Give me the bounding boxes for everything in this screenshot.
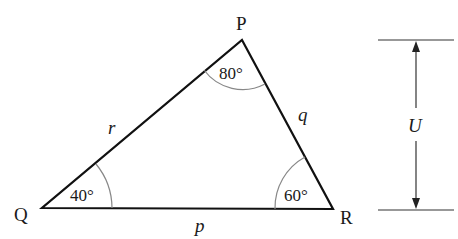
triangle-diagram: P Q R 80° 40° 60° r q p U — [0, 0, 458, 239]
angle-label-r: 60° — [284, 186, 308, 205]
vertex-label-p: P — [236, 13, 247, 34]
angle-label-q: 40° — [70, 186, 94, 205]
angle-label-p: 80° — [219, 64, 243, 83]
arrowhead-down-icon — [412, 198, 420, 209]
angle-arc-q — [96, 164, 112, 208]
dimension-label-u: U — [408, 115, 423, 136]
side-label-p: p — [193, 215, 205, 236]
triangle-pqr — [42, 40, 333, 209]
side-label-q: q — [298, 104, 308, 125]
side-label-r: r — [108, 117, 116, 138]
arrowhead-up-icon — [412, 41, 420, 52]
vertex-label-r: R — [340, 207, 353, 228]
vertex-label-q: Q — [14, 204, 28, 225]
